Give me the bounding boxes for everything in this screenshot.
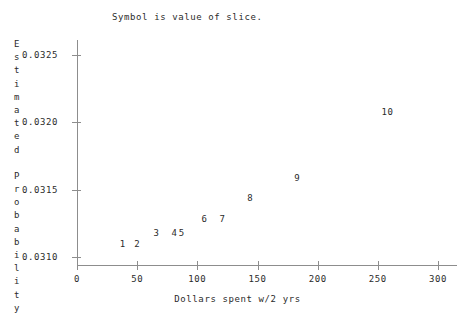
y-axis-title-char: o xyxy=(14,196,26,209)
x-tick-mark xyxy=(77,261,78,270)
x-tick-label: 300 xyxy=(429,274,447,284)
y-tick-label: 0.0320 xyxy=(22,117,58,127)
x-tick-mark xyxy=(197,261,198,270)
y-axis-title-char: d xyxy=(14,144,26,157)
y-axis-title-char: r xyxy=(14,183,26,196)
x-tick-mark xyxy=(438,261,439,270)
x-tick-mark xyxy=(378,261,379,270)
x-tick-label: 0 xyxy=(74,274,80,284)
data-point-symbol: 1 xyxy=(120,239,126,249)
data-point-symbol: 5 xyxy=(179,228,185,238)
y-tick-label: 0.0325 xyxy=(22,50,58,60)
x-tick-label: 250 xyxy=(369,274,387,284)
y-axis-title-char: i xyxy=(14,78,26,91)
data-point-symbol: 10 xyxy=(381,107,393,117)
y-axis-title-char xyxy=(14,157,26,170)
x-axis-line xyxy=(77,265,457,266)
y-axis-title-char: t xyxy=(14,117,26,130)
y-axis-line xyxy=(77,40,78,266)
y-tick-mark xyxy=(72,122,81,123)
y-tick-mark xyxy=(72,55,81,56)
x-tick-mark xyxy=(258,261,259,270)
y-axis-title-char: m xyxy=(14,91,26,104)
y-axis-title-char: t xyxy=(14,64,26,77)
x-tick-mark xyxy=(318,261,319,270)
y-axis-title-char: a xyxy=(14,223,26,236)
y-axis-title-char: P xyxy=(14,170,26,183)
x-tick-label: 200 xyxy=(309,274,327,284)
y-tick-label: 0.0310 xyxy=(22,252,58,262)
data-point-symbol: 6 xyxy=(202,214,208,224)
y-axis-title-char: b xyxy=(14,236,26,249)
x-axis-title: Dollars spent w/2 yrs xyxy=(0,294,475,304)
y-axis-title-char: e xyxy=(14,130,26,143)
x-tick-label: 150 xyxy=(248,274,266,284)
y-axis-title-char: i xyxy=(14,275,26,288)
y-axis-title-char: s xyxy=(14,51,26,64)
y-axis-title-char: l xyxy=(14,262,26,275)
scatter-plot-figure: Symbol is value of slice. 05010015020025… xyxy=(0,0,475,320)
x-tick-label: 100 xyxy=(188,274,206,284)
x-tick-mark xyxy=(137,261,138,270)
data-point-symbol: 2 xyxy=(134,239,140,249)
data-point-symbol: 4 xyxy=(171,228,177,238)
chart-title: Symbol is value of slice. xyxy=(112,12,262,22)
data-point-symbol: 3 xyxy=(153,228,159,238)
y-tick-mark xyxy=(72,257,81,258)
y-axis-title-char: E xyxy=(14,38,26,51)
data-point-symbol: 8 xyxy=(247,193,253,203)
y-axis-title-char: i xyxy=(14,249,26,262)
y-tick-label: 0.0315 xyxy=(22,185,58,195)
data-point-symbol: 9 xyxy=(294,173,300,183)
x-tick-label: 50 xyxy=(131,274,143,284)
y-axis-title-char: a xyxy=(14,104,26,117)
y-axis-title: Estimated Probability xyxy=(14,38,26,315)
data-point-symbol: 7 xyxy=(220,214,226,224)
y-axis-title-char: b xyxy=(14,209,26,222)
y-tick-mark xyxy=(72,190,81,191)
